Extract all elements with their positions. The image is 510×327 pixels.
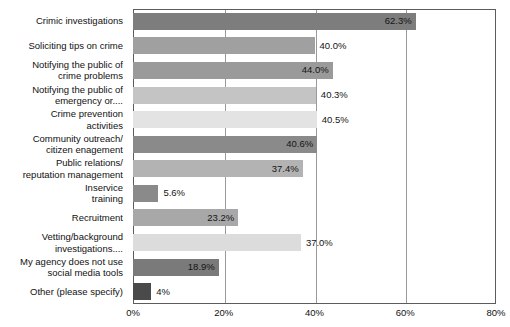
category-label: Inservice training [0,182,123,205]
bar-value-label: 62.3% [385,17,412,27]
category-label: My agency does not use social media tool… [0,256,123,279]
category-label: Community outreach/ citizen enagement [0,133,123,156]
category-label: Notifying the public of crime problems [0,59,123,82]
x-tick-label: 60% [396,307,415,318]
bar-value-label: 44.0% [302,66,329,76]
category-axis-labels: Crimic investigationsSoliciting tips on … [0,9,128,304]
bar-row[interactable]: 23.2% [133,206,496,231]
bar-row[interactable]: 40.0% [133,34,496,59]
bar-value-label: 40.3% [321,90,348,100]
bar-value-label: 18.9% [188,262,215,272]
bar-row[interactable]: 37.4% [133,157,496,182]
bar[interactable]: 37.0% [133,234,301,251]
bar-value-label: 4% [156,287,170,297]
bar-row[interactable]: 44.0% [133,58,496,83]
category-label: Crime prevention activities [0,108,123,131]
bar[interactable]: 44.0% [133,62,333,79]
bar-row[interactable]: 40.3% [133,83,496,108]
bar-value-label: 40.6% [286,139,313,149]
category-label: Crimic investigations [0,15,123,27]
bar[interactable]: 40.5% [133,111,317,128]
bar[interactable]: 5.6% [133,185,158,202]
bar-value-label: 23.2% [207,213,234,223]
category-label: Other (please specify) [0,286,123,298]
bar[interactable]: 4% [133,283,151,300]
bar[interactable]: 18.9% [133,259,219,276]
bar[interactable]: 40.0% [133,37,315,54]
bar-row[interactable]: 4% [133,279,496,304]
bar[interactable]: 40.6% [133,136,317,153]
bar-row[interactable]: 40.5% [133,107,496,132]
bar-row[interactable]: 40.6% [133,132,496,157]
bar-series: 62.3%40.0%44.0%40.3%40.5%40.6%37.4%5.6%2… [133,9,496,304]
x-tick-label: 0% [126,307,140,318]
category-label: Public relations/ reputation management [0,157,123,180]
bar-value-label: 5.6% [163,189,185,199]
category-label: Notifying the public of emergency or.... [0,84,123,107]
bar-row[interactable]: 5.6% [133,181,496,206]
category-label: Soliciting tips on crime [0,40,123,52]
category-label: Vetting/background investigations.... [0,231,123,254]
category-label: Recruitment [0,212,123,224]
bar-value-label: 37.4% [272,164,299,174]
x-tick-label: 20% [214,307,233,318]
bar-value-label: 37.0% [306,238,333,248]
horizontal-bar-chart: Crimic investigationsSoliciting tips on … [0,0,510,327]
bar[interactable]: 23.2% [133,209,238,226]
bar-value-label: 40.5% [322,115,349,125]
bar-row[interactable]: 18.9% [133,255,496,280]
x-axis-tick-labels: 0%20%40%60%80% [133,307,496,323]
x-tick-label: 80% [486,307,505,318]
bar[interactable]: 62.3% [133,13,416,30]
bar[interactable]: 37.4% [133,160,303,177]
bar-value-label: 40.0% [320,41,347,51]
bar-row[interactable]: 37.0% [133,230,496,255]
bar[interactable]: 40.3% [133,87,316,104]
x-tick-label: 40% [305,307,324,318]
bar-row[interactable]: 62.3% [133,9,496,34]
